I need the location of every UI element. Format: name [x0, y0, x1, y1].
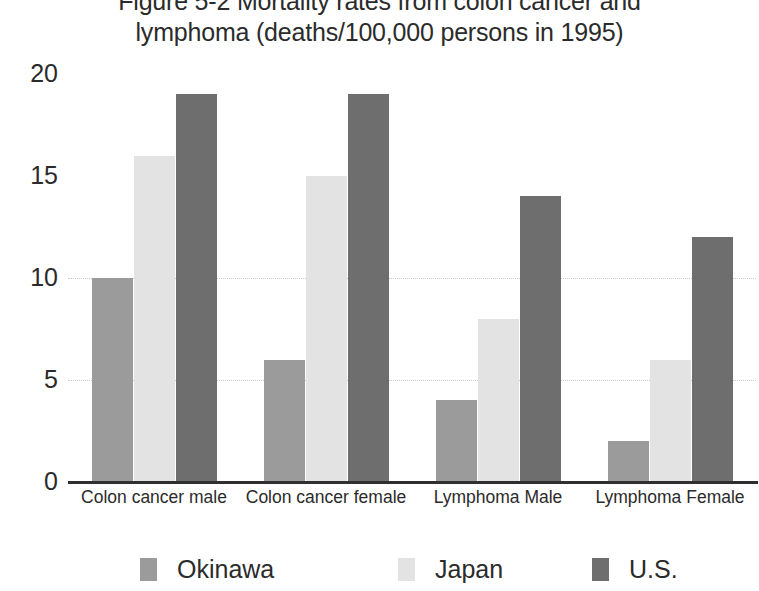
y-tick-label: 10: [0, 265, 58, 290]
bar: [650, 360, 691, 482]
legend-label: Japan: [435, 557, 503, 582]
y-tick-label: 15: [0, 163, 58, 188]
legend-swatch-icon: [398, 558, 415, 581]
bar: [520, 196, 561, 482]
legend-entry[interactable]: U.S.: [592, 552, 678, 586]
bar: [92, 278, 133, 482]
x-category-label: Lymphoma Male: [412, 487, 584, 508]
chart-legend: OkinawaJapanU.S.: [0, 552, 759, 591]
legend-entry[interactable]: Okinawa: [140, 552, 274, 586]
y-tick-label: 0: [0, 469, 58, 494]
x-category-label: Colon cancer male: [68, 487, 240, 508]
legend-entry[interactable]: Japan: [398, 552, 503, 586]
bar: [134, 156, 175, 482]
x-category-label: Colon cancer female: [240, 487, 412, 508]
legend-swatch-icon: [140, 558, 157, 581]
bar: [306, 176, 347, 482]
x-category-label: Lymphoma Female: [584, 487, 756, 508]
bar: [264, 360, 305, 482]
bar: [176, 94, 217, 482]
bar: [348, 94, 389, 482]
bar: [608, 441, 649, 482]
legend-label: U.S.: [629, 557, 678, 582]
bar: [478, 319, 519, 482]
y-tick-label: 5: [0, 367, 58, 392]
chart-title: Figure 5-2 Mortality rates from colon ca…: [0, 0, 759, 48]
legend-swatch-icon: [592, 558, 609, 581]
x-axis-line: [68, 481, 758, 484]
y-axis-tick-labels: 20151050: [0, 0, 60, 591]
bar: [436, 400, 477, 482]
bar-chart-figure: Figure 5-2 Mortality rates from colon ca…: [0, 0, 759, 591]
bar: [692, 237, 733, 482]
plot-area: [68, 74, 756, 482]
legend-label: Okinawa: [177, 557, 274, 582]
y-tick-label: 20: [0, 61, 58, 86]
